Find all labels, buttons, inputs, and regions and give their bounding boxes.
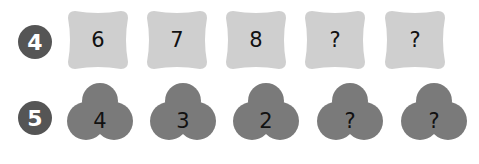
row-number-badge-4: 4 [18, 25, 52, 59]
sequence-square-2: 7 [146, 10, 208, 70]
sequence-value: ? [317, 90, 383, 152]
sequence-square-5: ? [384, 10, 446, 70]
sequence-cloud-4: ? [317, 82, 383, 144]
sequence-value: ? [304, 10, 366, 70]
sequence-cloud-3: 2 [233, 82, 299, 144]
sequence-value: 6 [67, 10, 129, 70]
sequence-square-1: 6 [67, 10, 129, 70]
sequence-value: ? [401, 90, 467, 152]
sequence-cloud-1: 4 [67, 82, 133, 144]
sequence-square-3: 8 [225, 10, 287, 70]
row-number-badge-5: 5 [18, 101, 52, 135]
sequence-value: ? [384, 10, 446, 70]
sequence-cloud-5: ? [401, 82, 467, 144]
sequence-value: 3 [150, 90, 216, 152]
sequence-value: 2 [233, 90, 299, 152]
sequence-value: 8 [225, 10, 287, 70]
sequence-value: 4 [67, 90, 133, 152]
sequence-cloud-2: 3 [150, 82, 216, 144]
sequence-value: 7 [146, 10, 208, 70]
sequence-square-4: ? [304, 10, 366, 70]
